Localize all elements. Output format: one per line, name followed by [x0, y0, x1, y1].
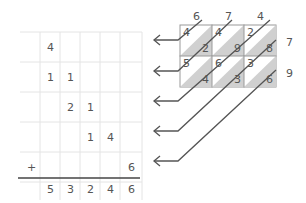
digit: 4 — [47, 41, 54, 54]
svg-text:9: 9 — [286, 67, 293, 80]
svg-text:4: 4 — [257, 10, 264, 23]
digit: 4 — [107, 131, 114, 144]
digit: 1 — [47, 71, 54, 84]
digit: + — [27, 161, 36, 174]
addition-grid: 4112114+653246 — [18, 32, 142, 200]
svg-text:6: 6 — [266, 73, 273, 86]
svg-text:7: 7 — [286, 36, 293, 49]
result-digit: 5 — [47, 183, 54, 196]
svg-text:2: 2 — [202, 42, 209, 55]
lattice-multiplication-diagram: 4112114+653246 42492854633667479 — [0, 0, 306, 203]
result-digit: 6 — [128, 183, 135, 196]
digit: 2 — [67, 101, 74, 114]
digit: 1 — [67, 71, 74, 84]
digit: 1 — [87, 101, 94, 114]
digit: 6 — [128, 161, 135, 174]
result-digit: 4 — [107, 183, 114, 196]
result-digit: 2 — [87, 183, 94, 196]
digit: 1 — [87, 131, 94, 144]
svg-text:6: 6 — [193, 10, 200, 23]
result-digit: 3 — [67, 183, 74, 196]
lattice-grid: 42492854633667479 — [180, 10, 293, 87]
